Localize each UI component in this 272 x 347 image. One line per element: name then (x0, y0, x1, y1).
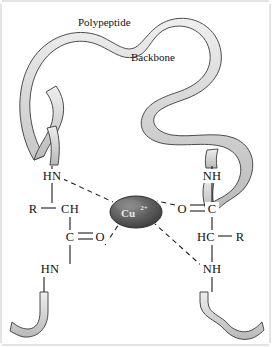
copper-ion-charge: 2+ (140, 204, 148, 212)
callout-backbone: Backbone (131, 51, 175, 63)
ribbon-bottom-right-tail (200, 292, 264, 339)
callout-polypeptide: Polypeptide (78, 16, 131, 28)
ribbon-bottom-left-tail (10, 292, 48, 337)
coord-bond-left-nitrogen (63, 179, 113, 202)
ribbon-right-upper-stub (205, 149, 218, 168)
atom-right-nh-bottom: NH (203, 262, 221, 276)
atom-right-o: O (177, 202, 186, 216)
atom-left-hn-top: HN (43, 169, 61, 183)
atom-left-o: O (95, 230, 104, 244)
figure-root: Cu 2+ HN R CH C O HN NH O C H (0, 0, 272, 347)
copper-chelation-diagram: Cu 2+ HN R CH C O HN NH O C H (0, 0, 272, 347)
double-bond-left-carbonyl (78, 233, 93, 239)
coord-bond-right-oxygen (157, 201, 175, 205)
atom-left-ch: CH (61, 202, 79, 216)
atom-right-c: C (208, 202, 217, 216)
double-bond-right-carbonyl (190, 205, 205, 211)
atom-labels-left: HN R CH C O HN (26, 169, 108, 276)
atom-right-nh-top: NH (203, 169, 221, 183)
atom-left-hn-bottom: HN (41, 262, 59, 276)
atom-left-c: C (66, 230, 75, 244)
atom-right-hc: HC (197, 230, 215, 244)
copper-ion-group: Cu 2+ (110, 196, 162, 228)
atom-right-r: R (236, 230, 245, 244)
atom-left-r: R (29, 202, 38, 216)
copper-ion-symbol: Cu (121, 207, 135, 219)
